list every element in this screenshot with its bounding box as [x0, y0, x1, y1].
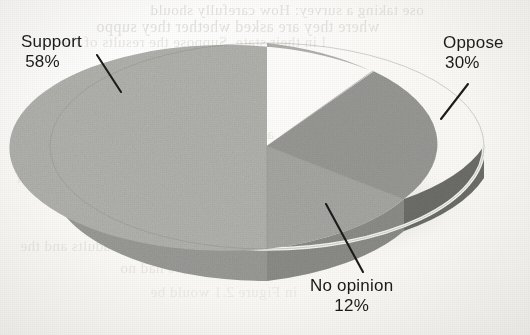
slice-label-oppose-name: Oppose — [443, 33, 504, 52]
slice-label-oppose-value: 30% — [443, 53, 504, 73]
slice-label-oppose: Oppose 30% — [443, 33, 504, 73]
leader-line-oppose — [441, 84, 468, 119]
slice-label-no-opinion-value: 12% — [310, 296, 393, 316]
slice-label-support-name: Support — [21, 32, 82, 51]
slice-label-support: Support 58% — [21, 32, 82, 72]
slice-label-no-opinion: No opinion 12% — [310, 276, 393, 316]
chart-page: ose taking a survey: How carefully shoul… — [0, 0, 530, 335]
slice-label-no-opinion-name: No opinion — [310, 276, 393, 295]
slice-label-support-value: 58% — [21, 52, 82, 72]
